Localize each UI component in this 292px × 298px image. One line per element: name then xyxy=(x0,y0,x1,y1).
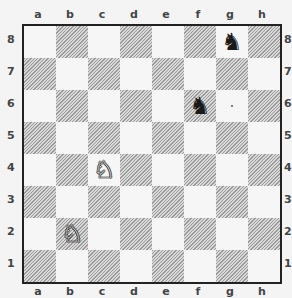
rank-labels-right: 8 7 6 5 4 3 2 1 xyxy=(284,24,292,282)
square-e4[interactable] xyxy=(152,154,184,186)
square-h3[interactable] xyxy=(248,186,280,218)
square-b4[interactable] xyxy=(56,154,88,186)
rank-label-4: 4 xyxy=(7,152,15,184)
chess-board: ♞♞♘♘ xyxy=(22,24,282,284)
square-d5[interactable] xyxy=(120,122,152,154)
square-d3[interactable] xyxy=(120,186,152,218)
square-f6[interactable]: ♞ xyxy=(184,90,216,122)
rank-label-8: 8 xyxy=(7,24,15,56)
square-d2[interactable] xyxy=(120,218,152,250)
square-a6[interactable] xyxy=(24,90,56,122)
square-f3[interactable] xyxy=(184,186,216,218)
square-a7[interactable] xyxy=(24,58,56,90)
square-h1[interactable] xyxy=(248,250,280,282)
square-e5[interactable] xyxy=(152,122,184,154)
rank-label-1: 1 xyxy=(284,248,292,280)
square-c4[interactable]: ♘ xyxy=(88,154,120,186)
square-b3[interactable] xyxy=(56,186,88,218)
square-b5[interactable] xyxy=(56,122,88,154)
square-b1[interactable] xyxy=(56,250,88,282)
square-a1[interactable] xyxy=(24,250,56,282)
white-knight-icon[interactable]: ♘ xyxy=(93,158,115,182)
file-label-b: b xyxy=(54,8,86,21)
square-f2[interactable] xyxy=(184,218,216,250)
square-g2[interactable] xyxy=(216,218,248,250)
rank-label-6: 6 xyxy=(7,88,15,120)
square-e2[interactable] xyxy=(152,218,184,250)
square-b7[interactable] xyxy=(56,58,88,90)
square-c8[interactable] xyxy=(88,26,120,58)
rank-label-2: 2 xyxy=(7,216,15,248)
square-d7[interactable] xyxy=(120,58,152,90)
square-h2[interactable] xyxy=(248,218,280,250)
square-c3[interactable] xyxy=(88,186,120,218)
rank-label-7: 7 xyxy=(284,56,292,88)
square-b2[interactable]: ♘ xyxy=(56,218,88,250)
rank-label-4: 4 xyxy=(284,152,292,184)
square-c1[interactable] xyxy=(88,250,120,282)
file-label-h: h xyxy=(246,285,278,298)
square-g7[interactable] xyxy=(216,58,248,90)
square-g4[interactable] xyxy=(216,154,248,186)
square-c7[interactable] xyxy=(88,58,120,90)
file-label-c: c xyxy=(86,285,118,298)
square-f4[interactable] xyxy=(184,154,216,186)
square-e7[interactable] xyxy=(152,58,184,90)
square-e1[interactable] xyxy=(152,250,184,282)
square-f1[interactable] xyxy=(184,250,216,282)
square-c5[interactable] xyxy=(88,122,120,154)
file-label-a: a xyxy=(22,8,54,21)
print-dot-mark xyxy=(231,105,233,107)
file-label-e: e xyxy=(150,285,182,298)
square-d4[interactable] xyxy=(120,154,152,186)
file-label-g: g xyxy=(214,8,246,21)
file-label-b: b xyxy=(54,285,86,298)
square-g5[interactable] xyxy=(216,122,248,154)
square-e8[interactable] xyxy=(152,26,184,58)
file-label-a: a xyxy=(22,285,54,298)
rank-label-5: 5 xyxy=(284,120,292,152)
rank-label-5: 5 xyxy=(7,120,15,152)
square-f5[interactable] xyxy=(184,122,216,154)
file-label-c: c xyxy=(86,8,118,21)
white-knight-icon[interactable]: ♘ xyxy=(61,222,83,246)
rank-label-3: 3 xyxy=(284,184,292,216)
square-g8[interactable]: ♞ xyxy=(216,26,248,58)
square-c2[interactable] xyxy=(88,218,120,250)
square-a3[interactable] xyxy=(24,186,56,218)
square-h5[interactable] xyxy=(248,122,280,154)
square-e6[interactable] xyxy=(152,90,184,122)
square-f8[interactable] xyxy=(184,26,216,58)
file-label-f: f xyxy=(182,8,214,21)
square-h6[interactable] xyxy=(248,90,280,122)
square-g3[interactable] xyxy=(216,186,248,218)
square-a5[interactable] xyxy=(24,122,56,154)
square-d6[interactable] xyxy=(120,90,152,122)
black-knight-icon[interactable]: ♞ xyxy=(221,30,243,54)
square-h8[interactable] xyxy=(248,26,280,58)
square-h7[interactable] xyxy=(248,58,280,90)
rank-label-3: 3 xyxy=(7,184,15,216)
rank-label-8: 8 xyxy=(284,24,292,56)
square-h4[interactable] xyxy=(248,154,280,186)
file-label-d: d xyxy=(118,8,150,21)
square-b8[interactable] xyxy=(56,26,88,58)
square-b6[interactable] xyxy=(56,90,88,122)
file-labels-bottom: a b c d e f g h xyxy=(22,285,282,298)
file-label-h: h xyxy=(246,8,278,21)
black-knight-icon[interactable]: ♞ xyxy=(189,94,211,118)
square-d1[interactable] xyxy=(120,250,152,282)
square-g1[interactable] xyxy=(216,250,248,282)
file-labels-top: a b c d e f g h xyxy=(22,8,282,21)
square-g6[interactable] xyxy=(216,90,248,122)
square-e3[interactable] xyxy=(152,186,184,218)
square-a2[interactable] xyxy=(24,218,56,250)
square-f7[interactable] xyxy=(184,58,216,90)
square-a8[interactable] xyxy=(24,26,56,58)
rank-labels-left: 8 7 6 5 4 3 2 1 xyxy=(7,24,15,282)
file-label-g: g xyxy=(214,285,246,298)
square-d8[interactable] xyxy=(120,26,152,58)
square-a4[interactable] xyxy=(24,154,56,186)
rank-label-2: 2 xyxy=(284,216,292,248)
square-c6[interactable] xyxy=(88,90,120,122)
